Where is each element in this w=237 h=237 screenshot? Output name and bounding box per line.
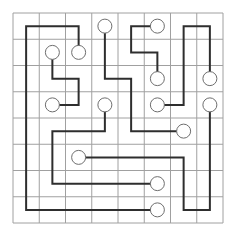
endpoint-circle-icon[interactable] — [45, 98, 59, 112]
endpoint-circle-icon[interactable] — [98, 19, 112, 33]
endpoint-circle-icon[interactable] — [98, 98, 112, 112]
puzzle-board[interactable] — [0, 0, 237, 237]
endpoint-circle-icon[interactable] — [72, 45, 86, 59]
endpoint-circle-icon[interactable] — [150, 98, 164, 112]
endpoint-circle-icon[interactable] — [150, 19, 164, 33]
endpoint-circle-icon[interactable] — [150, 177, 164, 191]
endpoint-circle-icon[interactable] — [177, 124, 191, 138]
endpoint-circle-icon[interactable] — [150, 72, 164, 86]
endpoint-circle-icon[interactable] — [150, 203, 164, 217]
endpoint-circle-icon[interactable] — [72, 150, 86, 164]
grid-lines — [13, 13, 223, 223]
endpoint-circle-icon[interactable] — [45, 45, 59, 59]
puzzle-grid[interactable] — [0, 0, 237, 237]
endpoint-circle-icon[interactable] — [203, 98, 217, 112]
endpoint-circle-icon[interactable] — [203, 72, 217, 86]
